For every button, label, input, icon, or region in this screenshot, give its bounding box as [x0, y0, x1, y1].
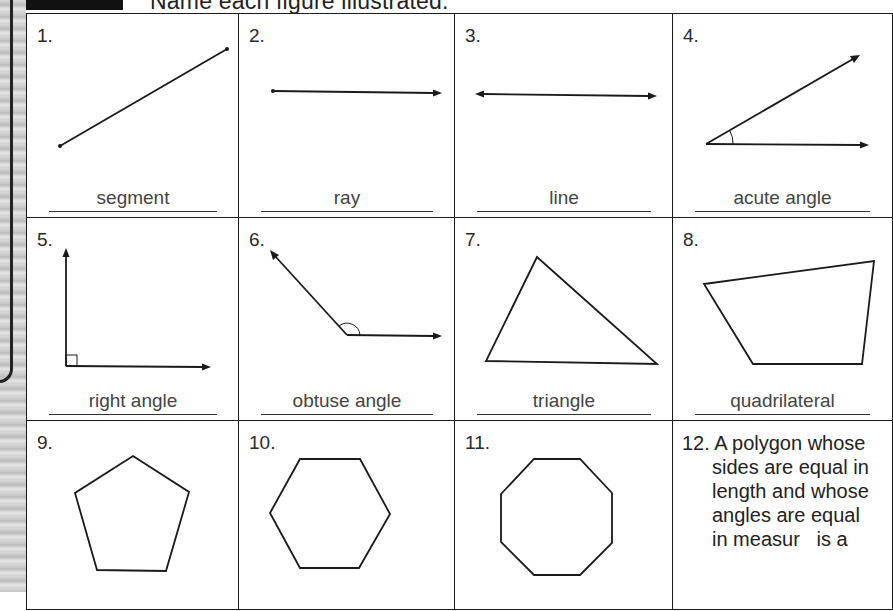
answer-segment: segment [49, 185, 217, 212]
question-line: A polygon whose [714, 432, 865, 454]
cell-6: 6. obtuse angle [238, 217, 456, 422]
figure-grid: 1. segment 2. ray 3. line 4. [26, 13, 893, 603]
cell-1: 1. segment [26, 13, 240, 219]
answer-right-angle: right angle [49, 388, 217, 415]
cell-10: 10. [238, 420, 456, 610]
cell-9: 9. [26, 420, 240, 610]
octagon-figure [455, 421, 675, 611]
cell-8: 8. quadrilateral [672, 217, 893, 422]
question-12: 12. A polygon whose sides are equal in l… [682, 431, 869, 551]
question-line: sides are equal in [682, 455, 869, 479]
cell-7: 7. triangle [454, 217, 674, 422]
cell-5: 5. right angle [26, 217, 240, 422]
question-line: in measur is a [682, 527, 869, 551]
question-line: angles are equal [682, 503, 869, 527]
hexagon-figure [239, 421, 457, 611]
answer-obtuse-angle: obtuse angle [261, 388, 433, 415]
answer-ray: ray [261, 185, 433, 212]
answer-acute-angle: acute angle [695, 185, 870, 212]
cell-12: 12. A polygon whose sides are equal in l… [672, 420, 893, 610]
answer-triangle: triangle [477, 388, 651, 415]
cell-2: 2. ray [238, 13, 456, 219]
question-line: length and whose [682, 479, 869, 503]
cell-11: 11. [454, 420, 674, 610]
item-number: 12. [682, 432, 710, 454]
cell-3: 3. line [454, 13, 674, 219]
section-tab [26, 0, 123, 10]
cell-4: 4. acute angle [672, 13, 893, 219]
answer-line: line [477, 185, 651, 212]
answer-quadrilateral: quadrilateral [695, 388, 870, 415]
pentagon-figure [27, 421, 241, 611]
binding-curve [0, 0, 13, 383]
